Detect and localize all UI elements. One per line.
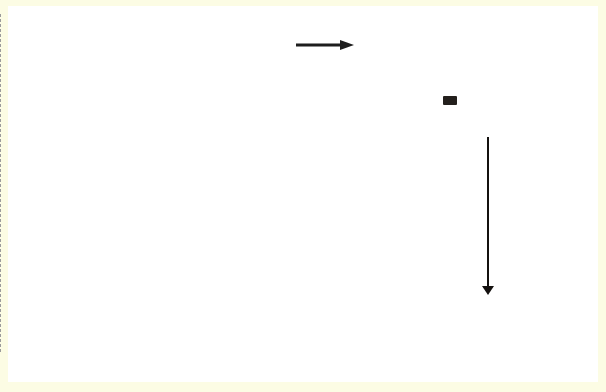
callout-arrow-head-icon (482, 286, 494, 295)
era-divider-line (0, 14, 1, 352)
plot-canvas (8, 6, 598, 382)
earthquake-callout (443, 96, 457, 105)
chart-page (0, 0, 606, 392)
callout-leader-line (487, 137, 489, 289)
era-arrow-icon (296, 40, 354, 50)
